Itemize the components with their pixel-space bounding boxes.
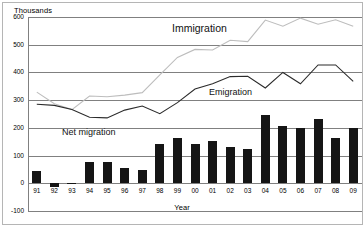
series-label-emigration: Emigration: [209, 87, 252, 97]
migration-chart: Thousands 6005004003002001000-100 919293…: [0, 0, 364, 226]
x-tick-label: 09: [342, 187, 364, 194]
y-tick-label: 400: [2, 68, 24, 75]
y-tick-label: 100: [2, 152, 24, 159]
y-tick-label: 600: [2, 13, 24, 20]
line-series-group: [28, 17, 362, 211]
series-label-immigration: Immigration: [172, 22, 227, 34]
y-tick-label: 300: [2, 96, 24, 103]
x-axis-title: Year: [0, 203, 364, 212]
y-tick-label: 200: [2, 124, 24, 131]
line-emigration: [37, 65, 353, 118]
y-axis-ticks: 6005004003002001000-100: [0, 17, 26, 211]
plot-area: [28, 17, 362, 211]
y-tick-label: 0: [2, 179, 24, 186]
series-label-net-migration: Net migration: [62, 127, 116, 137]
y-tick-label: 500: [2, 41, 24, 48]
